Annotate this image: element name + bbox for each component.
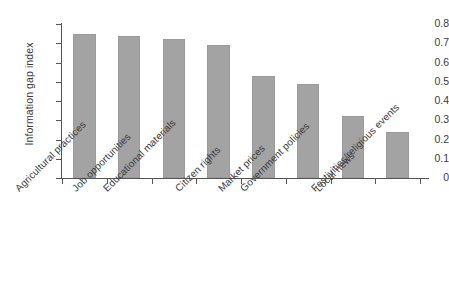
y-tick-mark xyxy=(56,24,61,25)
bar-chart: Information gap index 0.80.70.60.50.40.3… xyxy=(0,0,449,296)
x-tick-mark xyxy=(286,179,287,184)
y-axis-title: Information gap index xyxy=(23,14,35,174)
y-tick-mark xyxy=(56,82,61,83)
bar xyxy=(163,39,185,178)
y-tick-mark xyxy=(56,43,61,44)
y-tick-mark xyxy=(56,159,61,160)
bar xyxy=(386,132,408,178)
x-tick-mark xyxy=(62,179,63,184)
y-tick-mark xyxy=(56,63,61,64)
x-tick-mark xyxy=(420,179,421,184)
y-tick-mark xyxy=(56,178,61,179)
x-tick-mark xyxy=(375,179,376,184)
x-tick-mark xyxy=(196,179,197,184)
bar xyxy=(73,34,95,178)
y-tick-mark xyxy=(56,101,61,102)
y-tick-mark xyxy=(56,120,61,121)
x-tick-mark xyxy=(152,179,153,184)
